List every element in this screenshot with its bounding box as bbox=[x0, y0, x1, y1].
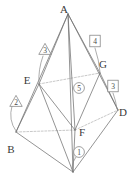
edge-B-C bbox=[16, 132, 73, 172]
edge-E-C bbox=[39, 84, 73, 172]
vertex-label-B: B bbox=[7, 143, 14, 155]
vertex-label-D: D bbox=[119, 106, 127, 118]
vertex-label-E: E bbox=[24, 74, 31, 86]
edge-E-B bbox=[16, 84, 39, 132]
edge-E-G bbox=[39, 73, 100, 84]
marker-4: 4 bbox=[90, 35, 100, 47]
edge-A-B bbox=[16, 14, 68, 132]
leader-2 bbox=[11, 106, 16, 131]
marker-5: 3 bbox=[108, 80, 118, 92]
marker-1-label: 1 bbox=[77, 148, 81, 157]
edge-A-F bbox=[68, 14, 75, 130]
marker-1: 1 bbox=[74, 147, 85, 158]
marker-6-label: 5 bbox=[77, 84, 81, 93]
hidden-edges-group bbox=[16, 73, 118, 132]
marker-2-label: 2 bbox=[14, 98, 18, 107]
edge-F-G bbox=[75, 73, 100, 130]
edge-E-F bbox=[39, 84, 75, 130]
edge-A-C bbox=[68, 14, 73, 172]
edge-A-D bbox=[68, 14, 118, 110]
marker-4-label: 4 bbox=[93, 37, 97, 46]
marker-3-label: 3 bbox=[43, 46, 47, 55]
marker-6: 5 bbox=[74, 83, 85, 94]
vertex-label-A: A bbox=[60, 3, 68, 15]
marker-3: 3 bbox=[39, 43, 51, 55]
vertex-label-F: F bbox=[79, 126, 85, 138]
marker-5-label: 3 bbox=[111, 82, 115, 91]
solid-edges-group bbox=[16, 14, 118, 172]
geometry-figure: 1 2 3 4 3 bbox=[0, 0, 137, 175]
marker-2: 2 bbox=[10, 95, 22, 107]
pyramid-diagram-svg: 1 2 3 4 3 bbox=[0, 0, 137, 175]
vertex-label-G: G bbox=[99, 58, 107, 70]
edge-B-F bbox=[16, 130, 75, 132]
